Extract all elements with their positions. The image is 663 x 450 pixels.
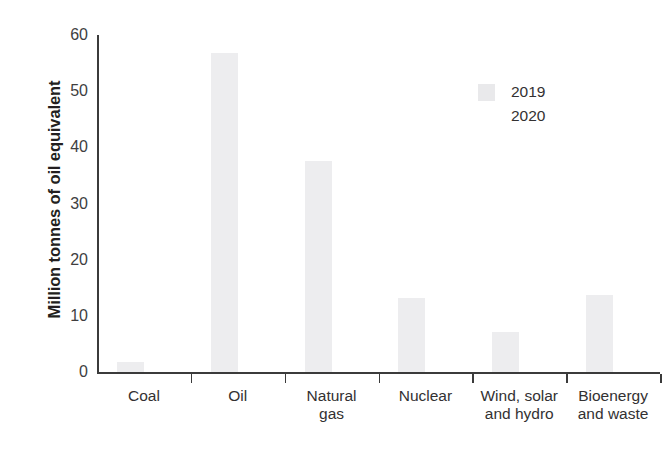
y-tick-label: 10 xyxy=(70,308,88,324)
bar-chart-figure: Million tonnes of oil equivalent 0102030… xyxy=(0,0,663,450)
x-tick-mark xyxy=(472,374,474,383)
legend-item-2019: 2019 xyxy=(478,80,545,104)
x-category-label: Bioenergy and waste xyxy=(558,387,663,423)
x-tick-mark xyxy=(379,374,381,383)
chart-legend: 2019 2020 xyxy=(478,80,545,128)
x-tick-mark xyxy=(660,374,662,383)
plot-area: 0102030405060 CoalOilNatural gasNuclearW… xyxy=(97,35,660,372)
legend-label-2020: 2020 xyxy=(511,108,545,124)
y-tick-label: 30 xyxy=(70,196,88,212)
bar-2019-coal xyxy=(117,362,144,372)
legend-item-2020: 2020 xyxy=(478,104,545,128)
y-tick-label: 60 xyxy=(70,27,88,43)
bar-2019-oil xyxy=(211,53,238,372)
legend-swatch-2019 xyxy=(478,84,495,101)
x-tick-mark xyxy=(285,374,287,383)
legend-swatch-2020 xyxy=(478,108,495,125)
y-axis-line xyxy=(97,35,99,372)
bar-2019-nuclear xyxy=(398,298,425,372)
legend-label-2019: 2019 xyxy=(511,84,545,100)
y-tick-label: 40 xyxy=(70,139,88,155)
bar-2019-bioenergy-and-waste xyxy=(586,295,613,373)
y-tick-label: 20 xyxy=(70,252,88,268)
x-tick-mark xyxy=(566,374,568,383)
y-tick-label: 0 xyxy=(79,364,88,380)
y-tick-label: 50 xyxy=(70,83,88,99)
bar-2019-wind-solar-and-hydro xyxy=(492,332,519,372)
x-tick-mark xyxy=(191,374,193,383)
y-axis-title: Million tonnes of oil equivalent xyxy=(45,30,64,370)
bar-2019-natural-gas xyxy=(305,161,332,372)
